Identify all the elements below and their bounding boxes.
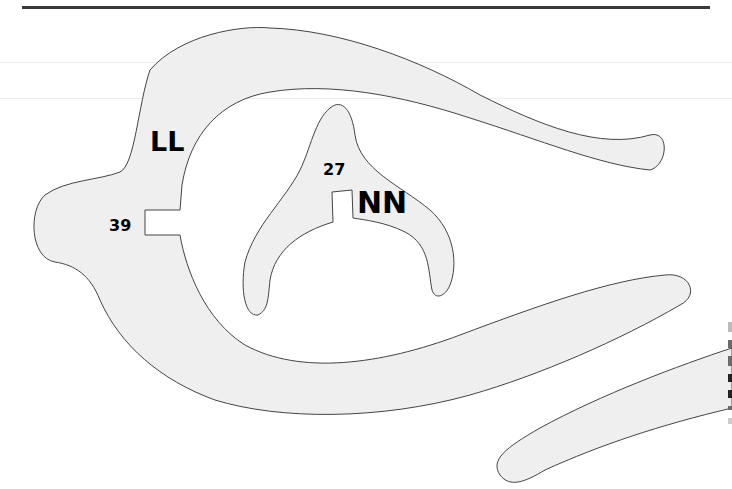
- label-39: 39: [109, 218, 131, 234]
- label-ll: LL: [150, 128, 184, 155]
- label-27: 27: [323, 162, 345, 178]
- outer-arc-piece: [34, 27, 691, 414]
- label-nn: NN: [357, 188, 407, 218]
- inner-y-piece: [243, 104, 454, 315]
- diagram-canvas: [0, 0, 732, 489]
- scan-edge-artifact: [728, 322, 732, 472]
